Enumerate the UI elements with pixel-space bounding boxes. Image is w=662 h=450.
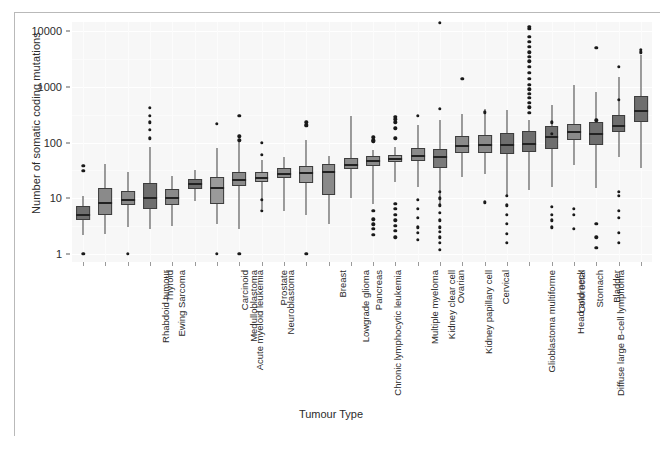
whisker-upper xyxy=(216,148,217,177)
median-line xyxy=(255,177,269,179)
y-axis-tick-label: 10000 xyxy=(31,25,62,37)
whisker-upper xyxy=(172,176,173,189)
whisker-lower xyxy=(618,132,619,157)
boxplot-box xyxy=(317,0,339,450)
outlier-point xyxy=(483,111,486,114)
box-iqr xyxy=(433,149,447,168)
whisker-upper xyxy=(350,116,351,158)
whisker-upper xyxy=(462,114,463,137)
whisker-lower xyxy=(105,215,106,234)
whisker-lower xyxy=(440,168,441,207)
whisker-lower xyxy=(261,182,262,209)
outlier-point xyxy=(371,223,374,226)
boxplot-box xyxy=(563,0,585,450)
box-iqr xyxy=(522,131,536,152)
outlier-point xyxy=(394,229,397,232)
box-iqr xyxy=(612,115,626,132)
outlier-point xyxy=(528,65,531,68)
whisker-lower xyxy=(194,189,195,201)
outlier-point xyxy=(394,213,397,216)
outlier-point xyxy=(550,213,553,216)
median-line xyxy=(299,172,313,174)
outlier-point xyxy=(550,121,553,124)
boxplot-box xyxy=(407,0,429,450)
whisker-upper xyxy=(618,77,619,115)
boxplot-box xyxy=(630,0,652,450)
median-line xyxy=(366,160,380,162)
median-line xyxy=(76,214,90,216)
outlier-point xyxy=(238,139,241,142)
outlier-point xyxy=(260,209,263,212)
x-axis-tick-label: Bladder xyxy=(611,270,622,303)
whisker-upper xyxy=(239,141,240,171)
outlier-point xyxy=(238,114,241,117)
whisker-lower xyxy=(172,205,173,226)
outlier-point xyxy=(505,241,508,244)
median-line xyxy=(589,133,603,135)
outlier-point xyxy=(148,106,151,109)
whisker-lower xyxy=(239,186,240,229)
outlier-point xyxy=(617,190,620,193)
median-line xyxy=(634,110,648,112)
outlier-point xyxy=(528,71,531,74)
median-line xyxy=(567,131,581,133)
whisker-lower xyxy=(283,178,284,211)
outlier-point xyxy=(550,226,553,229)
y-axis-tick-mark xyxy=(66,142,70,143)
boxplot-box xyxy=(362,0,384,450)
x-axis-tick-label: Stomach xyxy=(593,270,604,308)
whisker-lower xyxy=(551,149,552,187)
outlier-point xyxy=(572,213,575,216)
median-line xyxy=(165,197,179,199)
whisker-upper xyxy=(150,147,151,183)
y-axis-tick-mark xyxy=(66,198,70,199)
outlier-point xyxy=(595,222,598,225)
box-iqr xyxy=(210,177,224,204)
outlier-point xyxy=(438,219,441,222)
y-axis-tick-mark xyxy=(66,31,70,32)
outlier-point xyxy=(394,224,397,227)
outlier-point xyxy=(81,169,84,172)
whisker-lower xyxy=(395,162,396,181)
outlier-point xyxy=(595,236,598,239)
median-line xyxy=(232,179,246,181)
outlier-point xyxy=(215,252,218,255)
outlier-point xyxy=(550,219,553,222)
x-axis-tick-label: Breast xyxy=(338,270,349,297)
figure-root: Number of somatic coding mutations 11010… xyxy=(0,0,662,450)
boxplot-box xyxy=(206,0,228,450)
outlier-point xyxy=(148,136,151,139)
box-iqr xyxy=(322,164,336,195)
outlier-point xyxy=(148,114,151,117)
y-axis-tick-label: 100 xyxy=(44,137,62,149)
boxplot-box xyxy=(250,0,272,450)
whisker-lower xyxy=(462,153,463,177)
outlier-point xyxy=(505,204,508,207)
whisker-lower xyxy=(573,140,574,164)
outlier-point xyxy=(438,236,441,239)
outlier-point xyxy=(81,164,84,167)
outlier-point xyxy=(438,190,441,193)
whisker-lower xyxy=(529,152,530,190)
x-axis-tick-label: Colorectal xyxy=(576,270,587,313)
boxplot-box xyxy=(340,0,362,450)
y-axis-tick-label: 10 xyxy=(50,192,62,204)
x-axis-tick-label: Glioblastoma multiforme xyxy=(546,270,557,372)
whisker-upper xyxy=(506,110,507,132)
outlier-point xyxy=(260,198,263,201)
median-line xyxy=(322,171,336,173)
outlier-point xyxy=(416,216,419,219)
x-axis-title: Tumour Type xyxy=(0,408,662,420)
boxplot-box xyxy=(273,0,295,450)
y-axis-tick-mark xyxy=(66,86,70,87)
median-line xyxy=(389,158,403,160)
x-axis-tick-label: Ovarian xyxy=(455,270,466,303)
whisker-lower xyxy=(373,166,374,204)
boxplot-box xyxy=(496,0,518,450)
median-line xyxy=(143,197,157,199)
outlier-point xyxy=(260,153,263,156)
outlier-point xyxy=(505,194,508,197)
outlier-point xyxy=(572,227,575,230)
y-axis-tick-mark xyxy=(66,254,70,255)
outlier-point xyxy=(528,77,531,80)
